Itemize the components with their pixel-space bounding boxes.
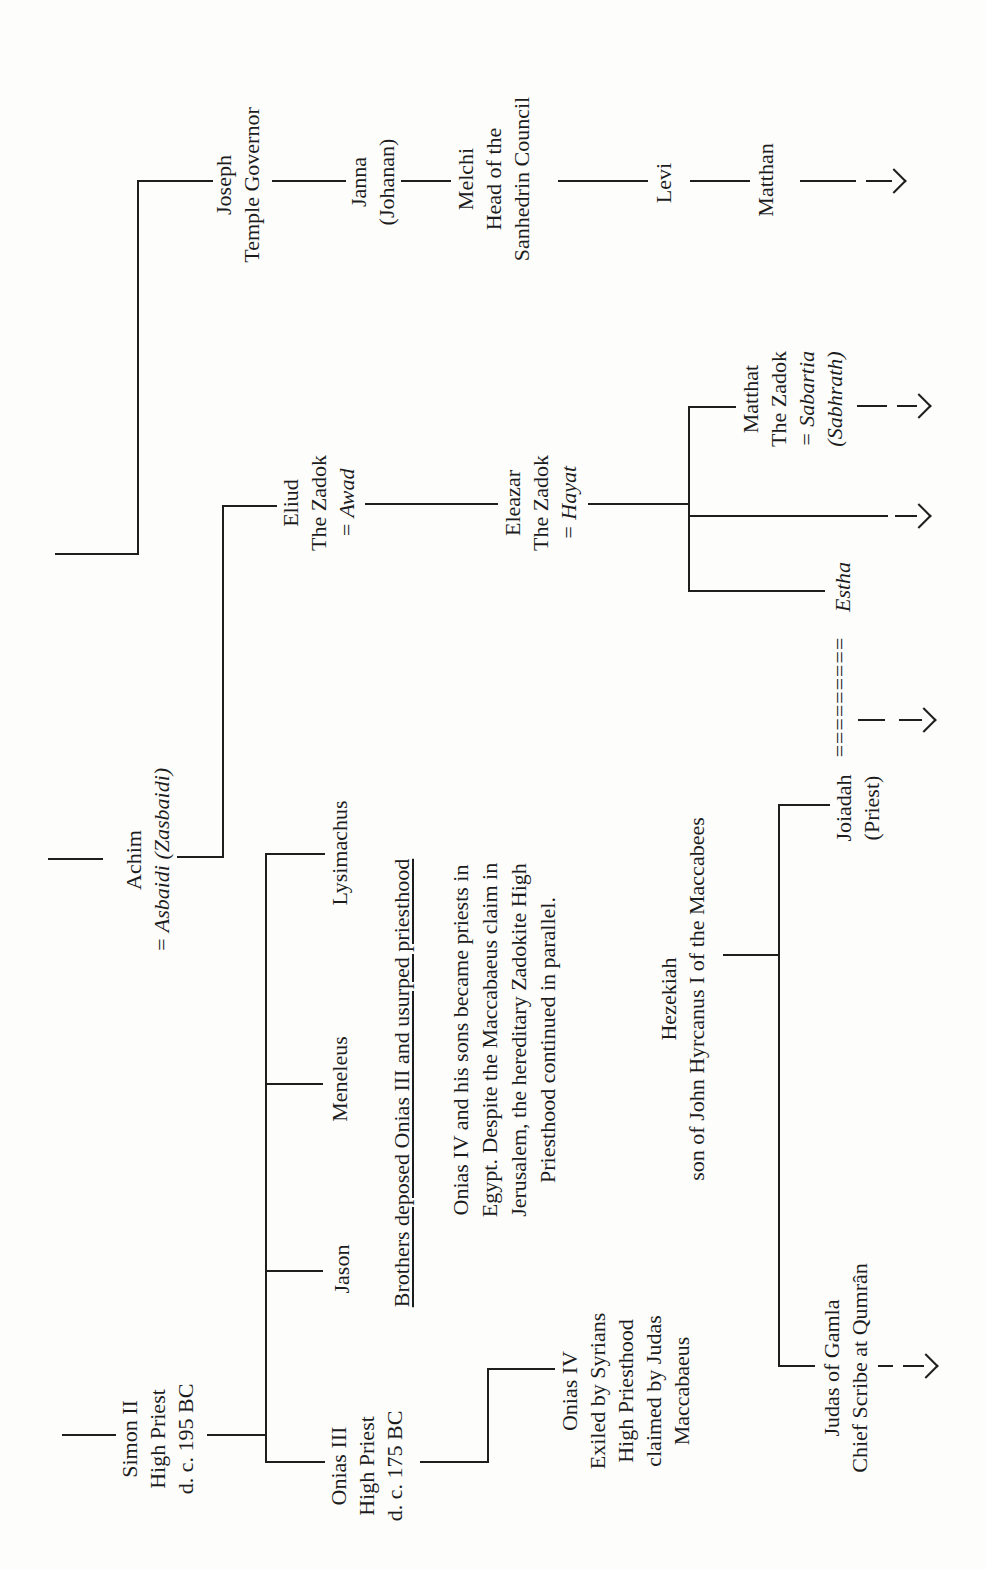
- connector-estha-union-dash: [858, 719, 885, 721]
- label-achim: Achim= Asbaidi (Zasbaidi): [120, 720, 176, 1000]
- connector-drop-matthat: [688, 406, 736, 408]
- connector-eliud-drop: [222, 505, 277, 507]
- label-joseph-line: Joseph: [210, 65, 238, 305]
- connector-simon-ancestor-riser: [62, 1434, 116, 1436]
- matthan-continues-arrowhead-icon: [881, 168, 906, 193]
- label-eleazar-line: = Hayat: [555, 413, 583, 593]
- label-eliud-line: = Awad: [333, 413, 361, 593]
- label-onias-note-line: Jerusalem, the hereditary Zadokite High: [504, 800, 533, 1280]
- label-matthat-line: (Sabhrath): [821, 309, 849, 489]
- judas-continues-arrowhead-icon: [913, 1353, 938, 1378]
- connector-drop-estha: [688, 590, 825, 592]
- label-jason: Jason: [328, 1204, 356, 1334]
- connector-matthat-dash: [857, 405, 887, 407]
- matthat-continues-arrowhead-icon: [906, 393, 931, 418]
- connector-achim-ancestor-riser: [48, 858, 103, 860]
- label-matthat-line: Matthat: [737, 309, 765, 489]
- label-onias-note: Onias IV and his sons became priests inE…: [446, 800, 562, 1280]
- label-matthat-line: = Sabartia: [793, 309, 821, 489]
- label-jason-line: Jason: [328, 1204, 356, 1334]
- connector-janna-melchi: [401, 180, 451, 182]
- label-matthan: Matthan: [752, 100, 780, 260]
- label-onias-iii: Onias IIIHigh Priestd. c. 175 BC: [325, 1371, 409, 1561]
- connector-judas-dash: [878, 1365, 893, 1367]
- label-hezekiah-line: son of John Hyrcanus I of the Maccabees: [683, 769, 711, 1229]
- connector-melchi-levi: [558, 180, 648, 182]
- joiadah-estha-line-continues-arrowhead-icon: [911, 707, 936, 732]
- label-melchi-line: Head of the: [480, 59, 508, 299]
- label-joiadah-line: (Priest): [858, 733, 886, 883]
- label-estha-line: Estha: [829, 527, 857, 647]
- label-matthat-line: The Zadok: [765, 309, 793, 489]
- label-melchi-line: Sanhedrin Council: [508, 59, 536, 299]
- eleazar-continues-arrowhead-icon: [906, 503, 931, 528]
- label-hezekiah-line: Hezekiah: [655, 769, 683, 1229]
- label-onias-note-line: Onias IV and his sons became priests in: [446, 800, 475, 1280]
- label-onias-iv-line: claimed by Judas: [640, 1276, 668, 1506]
- label-lysimachus: Lysimachus: [326, 753, 354, 953]
- label-onias-note-line: Priesthood continued in parallel.: [533, 800, 562, 1280]
- connector-onias-iii-stem: [420, 1461, 487, 1463]
- label-judas-of-gamla-line: Chief Scribe at Qumrân: [846, 1218, 874, 1518]
- connector-levi-matthan: [690, 180, 750, 182]
- genealogy-tree: Simon IIHigh Priestd. c. 195 BCAchim= As…: [0, 0, 986, 1569]
- label-deposition-note-line: Brothers deposed Onias III and usurped p…: [388, 793, 416, 1373]
- label-janna: Janna(Johanan): [345, 92, 401, 272]
- label-melchi-line: Melchi: [452, 59, 480, 299]
- label-onias-iv-line: Exiled by Syrians: [584, 1276, 612, 1506]
- connector-drop-judas: [778, 1365, 815, 1367]
- label-matthan-line: Matthan: [752, 100, 780, 260]
- connector-eliud-eleazar: [365, 503, 498, 505]
- label-simon-ii: Simon IIHigh Priestd. c. 195 BC: [116, 1344, 200, 1534]
- label-eliud-line: The Zadok: [305, 413, 333, 593]
- connector-drop-onias-iii: [265, 1461, 325, 1463]
- connector-drop-joiadah: [778, 804, 830, 806]
- label-simon-ii-line: Simon II: [116, 1344, 144, 1534]
- scanned-page: Simon IIHigh Priestd. c. 195 BCAchim= As…: [0, 0, 986, 1569]
- label-joseph: JosephTemple Governor: [210, 65, 266, 305]
- connector-joseph-jog-drop: [137, 180, 213, 182]
- label-estha: Estha: [829, 527, 857, 647]
- label-onias-iii-line: Onias III: [325, 1371, 353, 1561]
- connector-achim-eliud-jog: [222, 505, 224, 858]
- label-simon-ii-line: High Priest: [144, 1344, 172, 1534]
- label-onias-iii-line: d. c. 175 BC: [381, 1371, 409, 1561]
- label-joseph-line: Temple Governor: [238, 65, 266, 305]
- label-onias-iv: Onias IVExiled by SyriansHigh Priesthood…: [556, 1276, 696, 1506]
- label-eleazar: EleazarThe Zadok= Hayat: [499, 413, 583, 593]
- connector-simon-children-line: [265, 855, 267, 1463]
- label-simon-ii-line: d. c. 195 BC: [172, 1344, 200, 1534]
- label-lysimachus-line: Lysimachus: [326, 753, 354, 953]
- label-melchi: MelchiHead of theSanhedrin Council: [452, 59, 536, 299]
- label-hezekiah: Hezekiahson of John Hyrcanus I of the Ma…: [655, 769, 711, 1229]
- label-levi: Levi: [650, 123, 678, 243]
- connector-drop-lysimachus: [265, 853, 325, 855]
- label-levi-line: Levi: [650, 123, 678, 243]
- label-eleazar-line: The Zadok: [527, 413, 555, 593]
- label-eliud-line: Eliud: [277, 413, 305, 593]
- connector-eleazar-children-line: [688, 406, 690, 592]
- connector-joseph-jog-horizontal: [137, 180, 139, 555]
- connector-middle-descent-shaft: [688, 515, 888, 517]
- label-onias-iv-line: High Priesthood: [612, 1276, 640, 1506]
- label-onias-iii-line: High Priest: [353, 1371, 381, 1561]
- label-achim-line: Achim: [120, 720, 148, 1000]
- connector-onias-iv-jog: [487, 1368, 489, 1463]
- connector-onias-iv-drop: [487, 1368, 555, 1370]
- label-onias-iv-line: Maccabaeus: [668, 1276, 696, 1506]
- label-joiadah-line: Joiadah: [830, 733, 858, 883]
- label-janna-line: (Johanan): [373, 92, 401, 272]
- connector-matthan-tail: [800, 180, 856, 182]
- label-eliud: EliudThe Zadok= Awad: [277, 413, 361, 593]
- label-deposition-note: Brothers deposed Onias III and usurped p…: [388, 793, 416, 1373]
- label-judas-of-gamla-line: Judas of Gamla: [818, 1218, 846, 1518]
- connector-simon-children-riser: [207, 1434, 265, 1436]
- label-achim-line: = Asbaidi (Zasbaidi): [148, 720, 176, 1000]
- connector-drop-jason: [265, 1270, 323, 1272]
- label-janna-line: Janna: [345, 92, 373, 272]
- label-joiadah: Joiadah(Priest): [830, 733, 886, 883]
- label-onias-iv-line: Onias IV: [556, 1276, 584, 1506]
- connector-joseph-ancestor-riser: [55, 553, 139, 555]
- connector-hezekiah-children-line: [778, 806, 780, 1367]
- connector-drop-meneleus: [265, 1083, 323, 1085]
